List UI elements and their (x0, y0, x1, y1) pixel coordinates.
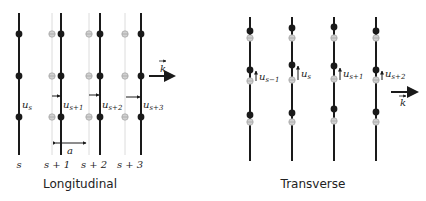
atom (373, 67, 380, 74)
lattice-spacing-label: a (67, 145, 73, 156)
atom (373, 28, 380, 35)
atom (289, 62, 296, 69)
atom (289, 25, 296, 32)
wave-vector-label: k (160, 63, 166, 74)
atom (331, 106, 338, 113)
atom (373, 109, 380, 116)
atom (58, 31, 65, 38)
atom (16, 73, 23, 80)
displacement-label: us+2 (385, 68, 406, 81)
atom (97, 73, 104, 80)
atom (97, 114, 104, 121)
site-label: s + 1 (44, 159, 70, 170)
atom (247, 67, 254, 74)
displacement-label: us+1 (63, 99, 83, 112)
atom (16, 31, 23, 38)
displacement-label: us−1 (259, 71, 279, 84)
atom (97, 31, 104, 38)
transverse-panel: us−1 us us+1 us+2 k Transverse (247, 17, 417, 191)
atom (138, 31, 145, 38)
site-label: s + 2 (81, 159, 107, 170)
longitudinal-panel: us us+1 us+2 us+3 a k s s + 1 s + 2 s + … (16, 13, 174, 191)
phonon-polarization-diagram: us us+1 us+2 us+3 a k s s + 1 s + 2 s + … (0, 0, 426, 201)
atom (138, 114, 145, 121)
wave-vector-label: k (400, 97, 406, 108)
displacement-label: us+3 (143, 99, 164, 112)
atom (331, 24, 338, 31)
atom (247, 112, 254, 119)
displacement-label: us (22, 99, 32, 112)
displacement-label: us+2 (102, 99, 123, 112)
atom (58, 114, 65, 121)
atom (138, 73, 145, 80)
longitudinal-caption: Longitudinal (43, 177, 117, 191)
atom (247, 28, 254, 35)
atom (289, 110, 296, 117)
atom (331, 63, 338, 70)
diagram-canvas: us us+1 us+2 us+3 a k s s + 1 s + 2 s + … (0, 0, 426, 201)
displacement-label: us+1 (343, 68, 363, 81)
site-label: s + 3 (117, 159, 143, 170)
atom (58, 73, 65, 80)
transverse-caption: Transverse (280, 177, 346, 191)
site-label: s (16, 159, 21, 170)
displacement-label: us (301, 68, 311, 81)
atom (16, 114, 23, 121)
